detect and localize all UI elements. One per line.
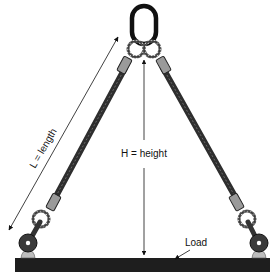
master-link: [132, 6, 156, 44]
load-leader-arrow: [175, 250, 190, 259]
length-label: L = length: [27, 127, 58, 170]
left-lower-ferrule: [46, 193, 61, 211]
height-label: H = height: [121, 148, 167, 159]
right-upper-ferrule: [156, 56, 172, 74]
load-label: Load: [185, 237, 207, 248]
load-beam: [15, 258, 270, 272]
length-arrow: [9, 37, 118, 230]
sling-diagram: L = length H = height Load: [0, 0, 270, 274]
left-upper-ferrule: [117, 56, 132, 74]
right-lower-ferrule: [229, 193, 245, 211]
